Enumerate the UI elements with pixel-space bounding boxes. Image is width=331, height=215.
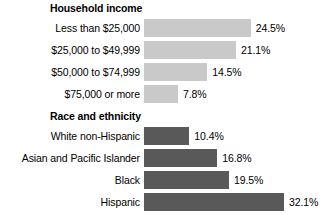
bar-row: $75,000 or more 7.8% (0, 85, 331, 103)
bar-row: Asian and Pacific Islander 16.8% (0, 149, 331, 167)
bar-row: Hispanic 32.1% (0, 193, 331, 211)
bar-category-label: Black (0, 174, 144, 186)
bar-track: 19.5% (144, 171, 331, 189)
bar-category-label: Asian and Pacific Islander (0, 152, 144, 164)
bar-value-label: 14.5% (212, 66, 241, 78)
panel-title-race-and-ethnicity: Race and ethnicity (50, 110, 331, 123)
bar-value-label: 7.8% (183, 88, 207, 100)
bar-fill (144, 149, 217, 167)
bar-row: $50,000 to $74,999 14.5% (0, 63, 331, 81)
bar-row: White non-Hispanic 10.4% (0, 127, 331, 145)
bar-fill (144, 193, 284, 211)
bar-value-label: 24.5% (256, 22, 285, 34)
bar-rows-race-and-ethnicity: White non-Hispanic 10.4% Asian and Pacif… (0, 127, 331, 211)
bar-row: Black 19.5% (0, 171, 331, 189)
bar-fill (144, 127, 189, 145)
bar-value-label: 32.1% (289, 196, 318, 208)
bar-category-label: White non-Hispanic (0, 130, 144, 142)
bar-track: 10.4% (144, 127, 331, 145)
bar-track: 16.8% (144, 149, 331, 167)
panel-race-and-ethnicity: Race and ethnicity White non-Hispanic 10… (0, 110, 331, 211)
bar-category-label: $25,000 to $49,999 (0, 44, 144, 56)
bar-track: 21.1% (144, 41, 331, 59)
bar-chart-figure: Household income Less than $25,000 24.5%… (0, 0, 331, 215)
bar-fill (144, 171, 229, 189)
bar-rows-household-income: Less than $25,000 24.5% $25,000 to $49,9… (0, 19, 331, 103)
bar-value-label: 10.4% (194, 130, 223, 142)
bar-value-label: 16.8% (222, 152, 251, 164)
bar-track: 14.5% (144, 63, 331, 81)
bar-category-label: $75,000 or more (0, 88, 144, 100)
panel-title-household-income: Household income (50, 2, 331, 15)
bar-fill (144, 19, 251, 37)
bar-row: $25,000 to $49,999 21.1% (0, 41, 331, 59)
bar-row: Less than $25,000 24.5% (0, 19, 331, 37)
bar-category-label: $50,000 to $74,999 (0, 66, 144, 78)
bar-value-label: 21.1% (241, 44, 270, 56)
bar-fill (144, 41, 236, 59)
panel-household-income: Household income Less than $25,000 24.5%… (0, 2, 331, 103)
bar-fill (144, 63, 207, 81)
bar-category-label: Hispanic (0, 196, 144, 208)
bar-track: 24.5% (144, 19, 331, 37)
bar-fill (144, 85, 178, 103)
bar-track: 7.8% (144, 85, 331, 103)
bar-category-label: Less than $25,000 (0, 22, 144, 34)
bar-track: 32.1% (144, 193, 331, 211)
bar-value-label: 19.5% (234, 174, 263, 186)
